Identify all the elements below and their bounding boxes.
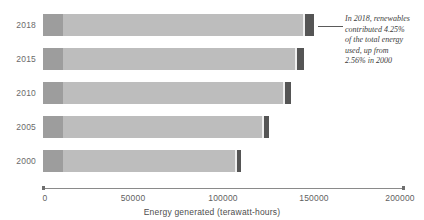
bar-segment-renewables [297,48,304,70]
x-axis-line [43,188,404,189]
bar-segment-b [63,82,283,104]
bar-segment-b [63,48,295,70]
stacked-bar-2005[interactable] [43,116,269,138]
bar-segment-b [63,14,303,36]
x-axis-end-cap [402,186,405,190]
stacked-bar-2000[interactable] [43,150,241,172]
annotation-line-3: of the total energy [345,35,423,46]
x-tick-label-0: 0 [43,193,48,203]
bar-segment-a [43,150,63,172]
x-tick-label-150000: 150000 [299,193,329,203]
bar-segment-a [43,48,63,70]
category-label-2005: 2005 [0,116,36,138]
bar-segment-b [63,116,262,138]
x-tick-label-100000: 100000 [208,193,238,203]
category-label-2015: 2015 [0,48,36,70]
bar-segment-renewables [285,82,291,104]
bar-segment-renewables [237,150,241,172]
annotation-leader-line [318,26,343,27]
bar-segment-a [43,116,63,138]
bar-segment-renewables [305,14,314,36]
annotation-line-5: 2.56% in 2000 [345,56,423,67]
stacked-bar-2010[interactable] [43,82,291,104]
x-axis-title: Energy generated (terawatt-hours) [0,207,424,217]
bar-segment-a [43,82,63,104]
bar-segment-renewables [264,116,269,138]
category-label-2010: 2010 [0,82,36,104]
x-tick-label-200000: 200000 [385,193,415,203]
energy-bar-chart: 2018 2015 2010 [0,0,424,220]
bar-segment-a [43,14,63,36]
x-axis-start-cap [42,186,45,190]
x-tick-label-50000: 50000 [121,193,146,203]
annotation-line-4: used, up from [345,46,423,57]
stacked-bar-2018[interactable] [43,14,314,36]
category-label-2000: 2000 [0,150,36,172]
annotation-line-1: In 2018, renewables [345,14,423,25]
stacked-bar-2015[interactable] [43,48,304,70]
annotation-text: In 2018, renewables contributed 4.25% of… [345,14,423,67]
annotation-line-2: contributed 4.25% [345,25,423,36]
category-label-2018: 2018 [0,14,36,36]
bar-segment-b [63,150,235,172]
